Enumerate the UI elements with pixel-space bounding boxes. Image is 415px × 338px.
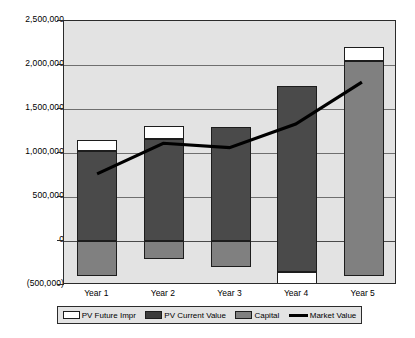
y-axis-tick-label: (500,000) <box>0 278 64 288</box>
legend-swatch-icon <box>145 311 162 319</box>
legend-swatch-icon <box>235 311 252 319</box>
y-axis-tick-mark <box>57 284 64 285</box>
legend-line-icon <box>289 311 308 319</box>
x-axis-tick-label: Year 1 <box>61 288 131 298</box>
y-axis-tick-label: 500,000 <box>0 190 64 200</box>
y-axis-tick-label: 1,000,000 <box>0 146 64 156</box>
y-axis-tick-label: 2,500,000 <box>0 14 64 24</box>
stacked-bar-chart: 2,500,0002,000,0001,500,0001,000,000500,… <box>0 0 415 338</box>
x-axis-tick-label: Year 3 <box>195 288 265 298</box>
market-value-polyline <box>97 82 362 174</box>
legend-item[interactable]: Capital <box>235 311 279 320</box>
legend-label: Capital <box>254 311 279 320</box>
legend-item[interactable]: Market Value <box>289 311 357 320</box>
x-axis-tick-label: Year 5 <box>328 288 398 298</box>
x-axis-tick-label: Year 4 <box>261 288 331 298</box>
legend-item[interactable]: PV Current Value <box>145 311 226 320</box>
chart-legend: PV Future ImprPV Current ValueCapitalMar… <box>57 306 362 324</box>
y-axis-tick-label: 0 <box>0 234 64 244</box>
x-axis-tick-label: Year 2 <box>128 288 198 298</box>
legend-label: Market Value <box>310 311 357 320</box>
y-axis-tick-label: 2,000,000 <box>0 58 64 68</box>
legend-label: PV Future Impr <box>82 311 136 320</box>
legend-label: PV Current Value <box>164 311 226 320</box>
plot-area <box>63 20 396 284</box>
legend-item[interactable]: PV Future Impr <box>63 311 136 320</box>
y-axis-tick-label: 1,500,000 <box>0 102 64 112</box>
market-value-line <box>64 21 395 283</box>
legend-swatch-icon <box>63 311 80 319</box>
